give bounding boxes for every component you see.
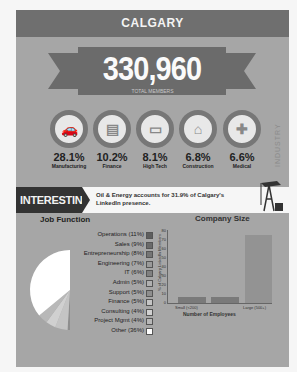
monitor-icon: ▭ — [136, 110, 174, 148]
total-members-value: 330,960 — [64, 49, 241, 88]
industry-medical: ✚ 6.6% Medical — [219, 110, 265, 170]
document-icon: ▤ — [93, 110, 131, 148]
y-tick: 40 — [158, 264, 166, 269]
industry-percent: 28.1% — [46, 152, 92, 163]
industry-percent: 6.6% — [219, 152, 265, 163]
industry-high-tech: ▭ 8.1% High Tech — [132, 110, 178, 170]
legend-item: IT (6%) — [55, 268, 153, 278]
legend-item: Sales (9%) — [55, 240, 153, 250]
x-tick-large: Large (500+) — [243, 305, 266, 310]
bar-large — [245, 235, 272, 303]
interesting-text: Oil & Energy accounts for 31.9% of Calga… — [96, 191, 246, 207]
industry-manufacturing: 🚗 28.1% Manufacturing — [46, 110, 92, 170]
x-axis-label: Number of Employees — [183, 311, 236, 317]
company-size-chart: % of Calgary LinkedIn Members 80 70 60 5… — [153, 225, 273, 320]
interesting-tag: INTERESTING — [16, 187, 82, 213]
industry-label: Medical — [219, 163, 265, 170]
industry-construction: ⌂ 6.8% Construction — [175, 110, 221, 170]
bar-small — [178, 297, 206, 303]
legend-item: Support (5%) — [55, 288, 153, 298]
y-tick: 30 — [158, 273, 166, 278]
legend-item: Entrepreneurship (8%) — [55, 249, 153, 259]
interesting-bar: INTERESTING Oil & Energy accounts for 31… — [16, 187, 289, 213]
oil-pump-icon — [259, 179, 285, 213]
city-title: CALGARY — [16, 10, 289, 37]
industry-finance: ▤ 10.2% Finance — [89, 110, 135, 170]
job-function-legend: Operations (11%) Sales (9%) Entrepreneur… — [55, 230, 153, 336]
y-tick: 20 — [158, 282, 166, 287]
industry-percent: 6.8% — [175, 152, 221, 163]
legend-item: Admin (5%) — [55, 278, 153, 288]
legend-item: Operations (11%) — [55, 230, 153, 240]
y-tick: 60 — [158, 246, 166, 251]
industry-label: Manufacturing — [46, 163, 92, 170]
industry-percent: 10.2% — [89, 152, 135, 163]
car-icon: 🚗 — [50, 110, 88, 148]
industry-label: Construction — [175, 163, 221, 170]
medical-cross-icon: ✚ — [223, 110, 261, 148]
industry-row: 🚗 28.1% Manufacturing ▤ 10.2% Finance ▭ … — [46, 110, 276, 175]
total-members-caption: TOTAL MEMBERS — [16, 88, 289, 94]
legend-item: Finance (5%) — [55, 297, 153, 307]
industry-label: High Tech — [132, 163, 178, 170]
chart-axis: 80 70 60 50 40 30 20 10 0 — [167, 230, 272, 304]
legend-item: Project Mgmt (4%) — [55, 316, 153, 326]
industry-percent: 8.1% — [132, 152, 178, 163]
legend-item: Other (36%) — [55, 326, 153, 336]
y-tick: 80 — [158, 228, 166, 233]
y-tick: 50 — [158, 255, 166, 260]
legend-item: Engineering (7%) — [55, 259, 153, 269]
company-size-title: Company Size — [195, 214, 250, 223]
y-tick: 70 — [158, 237, 166, 242]
industry-side-label: INDUSTRY — [274, 110, 286, 180]
house-icon: ⌂ — [179, 110, 217, 148]
industry-label: Finance — [89, 163, 135, 170]
y-tick: 0 — [158, 300, 166, 305]
job-function-title: Job Function — [40, 215, 90, 224]
y-tick: 10 — [158, 291, 166, 296]
x-tick-small: Small (<200) — [175, 305, 198, 310]
bar-medium — [211, 297, 239, 303]
legend-item: Consulting (4%) — [55, 307, 153, 317]
